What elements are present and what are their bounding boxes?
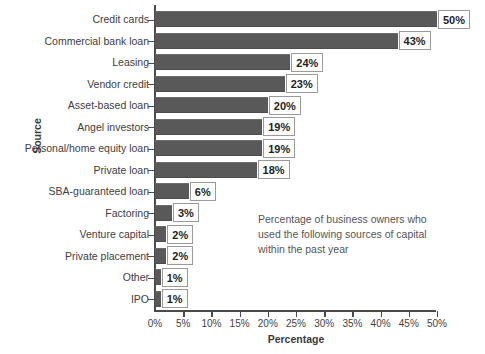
category-tick (148, 41, 155, 42)
bar[interactable] (155, 248, 166, 264)
bar[interactable] (155, 291, 161, 307)
bar-chart: Source Credit cardsCommercial bank loanL… (0, 0, 485, 354)
category-tick (148, 299, 155, 300)
bar[interactable] (155, 140, 262, 156)
category-tick (148, 235, 155, 236)
x-axis-tick (409, 311, 410, 317)
category-label: Venture capital (18, 224, 151, 246)
bar-row: 19% (155, 138, 437, 160)
bar-value-label: 20% (269, 96, 301, 115)
annotation-line: Percentage of business owners who (258, 212, 473, 227)
plot-area: 50%43%24%23%20%19%19%18%6%3%2%2%1%1% (155, 9, 440, 310)
bar[interactable] (155, 205, 172, 221)
category-tick (148, 20, 155, 21)
bar-value-label: 1% (162, 268, 188, 287)
category-tick (148, 84, 155, 85)
category-axis: Credit cardsCommercial bank loanLeasingV… (18, 9, 151, 310)
category-label: Leasing (18, 52, 151, 74)
x-axis-spine (154, 310, 436, 312)
category-label: IPO (18, 289, 151, 311)
category-tick (148, 149, 155, 150)
category-label: Vendor credit (18, 74, 151, 96)
bar-row: 1% (155, 267, 437, 289)
x-axis-tick (211, 311, 212, 317)
bar[interactable] (155, 119, 262, 135)
bar-row: 1% (155, 289, 437, 311)
bar[interactable] (155, 269, 161, 285)
category-label: Angel investors (18, 117, 151, 139)
bar-value-label: 1% (162, 289, 188, 308)
bar-row: 43% (155, 31, 437, 53)
bar[interactable] (155, 97, 268, 113)
x-axis-tick (183, 311, 184, 317)
bar[interactable] (155, 162, 257, 178)
bar[interactable] (155, 226, 166, 242)
bar-row: 19% (155, 117, 437, 139)
bar[interactable] (155, 76, 285, 92)
category-tick (148, 256, 155, 257)
bar-value-label: 3% (173, 203, 199, 222)
x-axis-tick (296, 311, 297, 317)
bar-value-label: 43% (399, 31, 431, 50)
bar-value-label: 2% (167, 225, 193, 244)
bar-value-label: 24% (291, 53, 323, 72)
x-axis-tick-label: 50% (417, 318, 457, 329)
bar-row: 18% (155, 160, 437, 182)
category-label: Commercial bank loan (18, 31, 151, 53)
x-axis-tick (324, 311, 325, 317)
category-tick (148, 127, 155, 128)
bar-value-label: 2% (167, 246, 193, 265)
bar-value-label: 19% (263, 117, 295, 136)
bar-value-label: 6% (190, 182, 216, 201)
bar-value-label: 50% (438, 10, 470, 29)
category-tick (148, 192, 155, 193)
bar-value-label: 18% (258, 160, 290, 179)
bar[interactable] (155, 33, 398, 49)
annotation-line: used the following sources of capital (258, 227, 473, 242)
x-axis-tick (268, 311, 269, 317)
category-tick (148, 170, 155, 171)
category-tick (148, 278, 155, 279)
bar-row: 20% (155, 95, 437, 117)
category-label: Credit cards (18, 9, 151, 31)
x-axis-tick (240, 311, 241, 317)
category-label: Personal/home equity loan (18, 138, 151, 160)
chart-annotation: Percentage of business owners whoused th… (258, 212, 473, 257)
category-label: Other (18, 267, 151, 289)
category-label: Private placement (18, 246, 151, 268)
bar-value-label: 19% (263, 139, 295, 158)
bar[interactable] (155, 11, 437, 27)
bar[interactable] (155, 54, 290, 70)
x-axis-title: Percentage (155, 333, 437, 345)
annotation-line: within the past year (258, 242, 473, 257)
category-tick (148, 106, 155, 107)
bar-row: 6% (155, 181, 437, 203)
bar-row: 23% (155, 74, 437, 96)
category-label: Factoring (18, 203, 151, 225)
category-label: SBA-guaranteed loan (18, 181, 151, 203)
bar-value-label: 23% (286, 74, 318, 93)
x-axis-tick (381, 311, 382, 317)
x-axis-tick (352, 311, 353, 317)
category-label: Asset-based loan (18, 95, 151, 117)
x-axis-tick (437, 311, 438, 317)
category-label: Private loan (18, 160, 151, 182)
bar-row: 24% (155, 52, 437, 74)
bar[interactable] (155, 183, 189, 199)
category-tick (148, 213, 155, 214)
bar-row: 50% (155, 9, 437, 31)
category-tick (148, 63, 155, 64)
